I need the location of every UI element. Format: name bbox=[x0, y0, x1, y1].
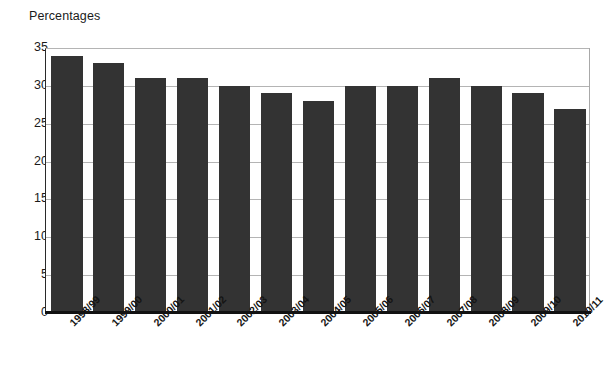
bar bbox=[429, 78, 460, 313]
bars-layer bbox=[46, 49, 589, 313]
bar bbox=[387, 86, 418, 313]
y-tick-label: 35 bbox=[8, 40, 48, 54]
y-tick-label: 5 bbox=[8, 267, 48, 281]
y-tick-label: 25 bbox=[8, 116, 48, 130]
y-tick-label: 20 bbox=[8, 154, 48, 168]
bar bbox=[345, 86, 376, 313]
bar bbox=[512, 93, 543, 313]
bar bbox=[93, 63, 124, 313]
y-tick-label: 0 bbox=[8, 305, 48, 319]
bar-chart: Percentages 05101520253035 1998/991999/0… bbox=[0, 0, 613, 384]
y-tick-label: 30 bbox=[8, 78, 48, 92]
bar bbox=[51, 56, 82, 313]
bar bbox=[471, 86, 502, 313]
bar bbox=[303, 101, 334, 313]
bar bbox=[135, 78, 166, 313]
x-axis-labels: 1998/991999/002000/012001/022002/032003/… bbox=[45, 314, 591, 384]
bar bbox=[554, 109, 585, 313]
bar bbox=[219, 86, 250, 313]
bar bbox=[261, 93, 292, 313]
y-tick-label: 15 bbox=[8, 191, 48, 205]
plot-area bbox=[45, 48, 590, 313]
y-tick-label: 10 bbox=[8, 229, 48, 243]
bar bbox=[177, 78, 208, 313]
